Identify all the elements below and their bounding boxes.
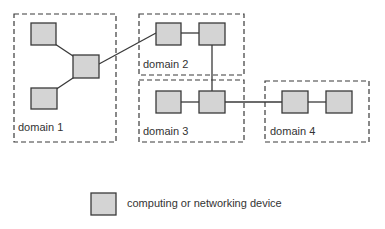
device-d3-left xyxy=(156,91,181,113)
legend xyxy=(91,193,116,215)
domain-4-label: domain 4 xyxy=(270,125,315,137)
device-d1-bottom xyxy=(31,88,57,109)
device-d2-right xyxy=(199,23,225,45)
domain-3-label: domain 3 xyxy=(143,125,188,137)
domain-2-label: domain 2 xyxy=(143,58,188,70)
device-d4-left xyxy=(282,91,308,113)
device-d3-right xyxy=(199,91,225,113)
device-d1-top xyxy=(31,23,56,45)
device-d1-center xyxy=(73,55,99,78)
nodes-layer xyxy=(31,23,352,113)
device-d2-left xyxy=(156,23,181,45)
device-d4-right xyxy=(326,91,352,113)
network-domains-diagram: domain 1 domain 2 domain 3 domain 4 xyxy=(0,0,385,229)
domain-1-label: domain 1 xyxy=(18,121,63,133)
legend-label: computing or networking device xyxy=(127,197,282,209)
device-square-icon xyxy=(91,193,116,215)
